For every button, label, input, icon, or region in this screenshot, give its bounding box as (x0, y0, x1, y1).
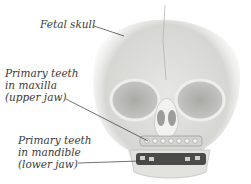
label-primary-teeth-maxilla: Primary teeth in maxilla (upper jaw) (5, 67, 79, 103)
label-fetal-skull: Fetal skull (40, 18, 95, 30)
label-line: (lower jaw) (18, 158, 92, 170)
label-line: in mandible (18, 146, 92, 158)
label-line: (upper jaw) (5, 91, 79, 103)
label-line: in maxilla (5, 79, 79, 91)
label-line: Primary teeth (5, 67, 79, 79)
label-primary-teeth-mandible: Primary teeth in mandible (lower jaw) (18, 134, 92, 170)
label-line: Fetal skull (40, 18, 95, 30)
label-line: Primary teeth (18, 134, 92, 146)
